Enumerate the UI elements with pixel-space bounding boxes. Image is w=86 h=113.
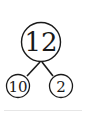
connector-right — [42, 62, 53, 76]
whole-node: 12 — [22, 23, 61, 62]
part-label-left: 10 — [8, 78, 27, 96]
whole-label: 12 — [24, 27, 57, 57]
connector-left — [27, 62, 40, 76]
part-node-right: 2 — [50, 75, 73, 98]
number-bond-diagram: 12 10 2 — [0, 0, 86, 113]
part-node-left: 10 — [7, 75, 30, 98]
part-label-right: 2 — [56, 78, 66, 96]
